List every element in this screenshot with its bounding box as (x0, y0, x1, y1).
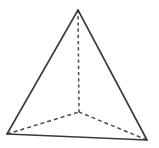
tetrahedron-figure (0, 0, 159, 148)
tetrahedron-svg-canvas (0, 0, 159, 148)
